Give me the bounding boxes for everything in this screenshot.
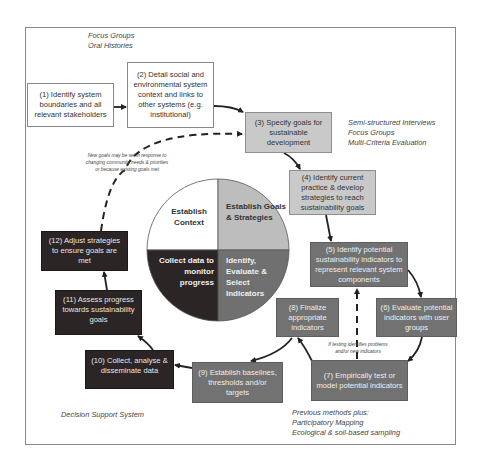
method-oral-histories: Oral Histories	[88, 41, 134, 51]
quadrant-establish-goals: Establish Goals & Strategies	[226, 201, 288, 223]
quadrant-identify-indicators: Identify, Evaluate & Select Indicators	[226, 255, 288, 299]
step-3-specify-goals: (3) Specify goals for sustainable develo…	[245, 112, 332, 153]
step-8-finalize-indicators: (8) Finalize appropriate indicators	[276, 298, 339, 337]
step-12-text: (12) Adjust strategies to ensure goals a…	[45, 236, 124, 266]
method-focus-groups: Focus Groups	[88, 31, 134, 41]
methods-bottom-right: Previous methods plus: Participatory Map…	[292, 408, 400, 438]
step-6-text: (6) Evaluate potential indicators with u…	[380, 303, 453, 333]
step-4-current-practice: (4) Identify current practice & develop …	[289, 170, 376, 215]
step-1-text: (1) Identify system boundaries and all r…	[31, 90, 110, 120]
step-10-text: (10) Collect, analyse & disseminate data	[89, 356, 170, 376]
method-decision-support-system: Decision Support System	[61, 410, 144, 420]
methods-top-left: Focus Groups Oral Histories	[88, 31, 134, 51]
annotation-new-goals-line-2: changing community needs & priorities	[72, 159, 182, 166]
step-7-test-indicators: (7) Empirically test or model potential …	[311, 360, 408, 401]
step-12-adjust-strategies: (12) Adjust strategies to ensure goals a…	[41, 231, 128, 271]
step-6-evaluate-indicators: (6) Evaluate potential indicators with u…	[376, 298, 457, 337]
quadrant-collect-data: Collect data to monitor progress	[154, 255, 214, 288]
step-11-assess-progress: (11) Assess progress towards sustainabil…	[55, 290, 142, 335]
step-9-text: (9) Establish baselines, thresholds and/…	[196, 368, 279, 398]
step-5-identify-indicators: (5) Identify potential sustainability in…	[310, 242, 408, 287]
annotation-new-goals: New goals may be set in response to chan…	[72, 152, 182, 173]
step-8-text: (8) Finalize appropriate indicators	[280, 303, 335, 333]
annotation-new-goals-line-3: or because existing goals met	[72, 166, 182, 173]
step-2-text: (2) Detail social and environmental syst…	[131, 70, 210, 120]
annotation-new-goals-line-1: New goals may be set in response to	[72, 152, 182, 159]
step-1-identify-boundaries: (1) Identify system boundaries and all r…	[27, 83, 114, 127]
method-previous-methods: Previous methods plus:	[292, 408, 400, 418]
annotation-testing-line-1: If testing identifies problems	[318, 341, 398, 348]
step-11-text: (11) Assess progress towards sustainabil…	[59, 295, 138, 325]
method-focus-groups-2: Focus Groups	[348, 128, 435, 138]
step-9-establish-baselines: (9) Establish baselines, thresholds and/…	[192, 362, 283, 403]
step-7-text: (7) Empirically test or model potential …	[315, 371, 404, 391]
method-ecological-sampling: Ecological & soil-based sampling	[292, 428, 400, 438]
step-5-text: (5) Identify potential sustainability in…	[314, 245, 404, 285]
method-semi-structured-interviews: Semi-structured Interviews	[348, 118, 435, 128]
method-multi-criteria-evaluation: Multi-Criteria Evaluation	[348, 138, 435, 148]
methods-right: Semi-structured Interviews Focus Groups …	[348, 118, 435, 148]
step-4-text: (4) Identify current practice & develop …	[293, 173, 372, 213]
annotation-testing: If testing identifies problems and/or ne…	[318, 341, 398, 355]
step-3-text: (3) Specify goals for sustainable develo…	[249, 118, 328, 148]
quadrant-establish-context: Establish Context	[162, 206, 216, 228]
annotation-testing-line-2: and/or new indicators	[318, 348, 398, 355]
step-2-detail-context: (2) Detail social and environmental syst…	[127, 62, 214, 128]
method-participatory-mapping: Participatory Mapping	[292, 418, 400, 428]
step-10-collect-data: (10) Collect, analyse & disseminate data	[85, 350, 174, 389]
methods-bottom-left: Decision Support System	[61, 410, 144, 420]
